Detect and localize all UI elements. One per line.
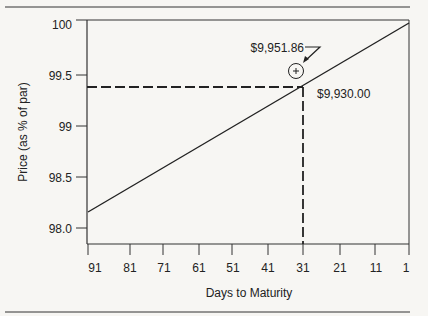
x-tick-label: 41 [261, 261, 275, 275]
annotation-upper-price: $9,951.86 [251, 41, 305, 55]
x-tick-label: 51 [226, 261, 240, 275]
plot-frame [87, 20, 409, 244]
price-line [88, 23, 409, 212]
annotation-lower-price: $9,930.00 [317, 87, 371, 101]
x-axis: 91 81 71 61 51 41 31 21 11 1 Days to Mat… [88, 244, 410, 300]
x-tick-label: 81 [123, 261, 137, 275]
chart: 100 99.5 99 98.5 98.0 Price (as % of par… [0, 0, 428, 316]
x-tick-label: 91 [88, 261, 102, 275]
x-tick-label: 21 [333, 261, 347, 275]
y-tick-label: 99 [59, 120, 73, 134]
circled-plus-marker-icon [289, 64, 304, 79]
x-tick-label: 61 [192, 261, 206, 275]
y-tick-label: 100 [52, 18, 72, 32]
y-axis: 100 99.5 99 98.5 98.0 Price (as % of par… [16, 18, 87, 236]
y-tick-label: 98.5 [49, 171, 73, 185]
x-tick-label: 11 [370, 261, 383, 275]
x-tick-label: 31 [296, 261, 310, 275]
x-tick-label: 71 [157, 261, 171, 275]
y-axis-label: Price (as % of par) [16, 82, 30, 181]
annotation-arrow-icon [303, 47, 320, 63]
y-tick-label: 98.0 [49, 222, 73, 236]
x-tick-label: 1 [403, 261, 410, 275]
x-axis-label: Days to Maturity [206, 286, 293, 300]
y-tick-label: 99.5 [49, 69, 73, 83]
